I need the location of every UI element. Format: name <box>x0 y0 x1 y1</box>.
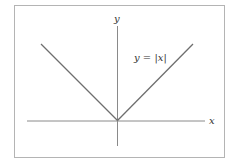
function-label: y = |x| <box>133 52 167 64</box>
y-axis-label: y <box>113 13 120 24</box>
plot-frame <box>15 6 225 158</box>
function-plot: x y y = |x| <box>0 0 235 164</box>
x-axis-label: x <box>209 115 215 126</box>
